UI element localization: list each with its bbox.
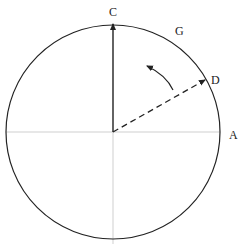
label-d: D — [211, 73, 220, 87]
rotation-diagram: C G D A — [0, 0, 243, 252]
vector-to-d — [113, 80, 205, 132]
rotation-arrow-icon — [147, 66, 173, 90]
label-c: C — [109, 5, 117, 19]
label-g: G — [175, 24, 184, 38]
label-a: A — [229, 128, 238, 142]
